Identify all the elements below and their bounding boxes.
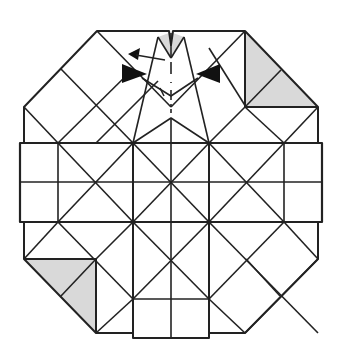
left-push-arrow-icon — [122, 64, 147, 83]
diagram-svg — [0, 0, 342, 363]
origami-diagram: Octagonal folded base with square grid, … — [0, 0, 342, 363]
right-push-arrow-icon — [196, 64, 220, 83]
fold-over-arrow-icon — [128, 48, 165, 60]
